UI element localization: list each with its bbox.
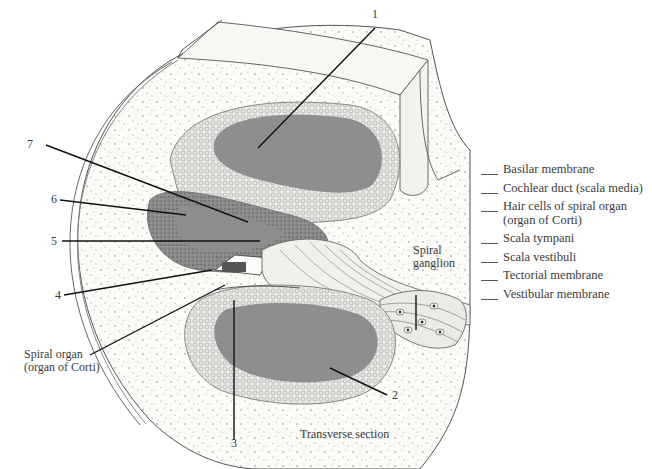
answer-blank	[481, 262, 498, 263]
legend-item: Basilar membrane	[481, 163, 651, 177]
legend-item-label: Cochlear duct (scala media)	[503, 182, 651, 196]
section-caption: Transverse section	[300, 428, 389, 441]
callout-4: 4	[55, 289, 61, 302]
answer-blank	[481, 211, 498, 212]
callout-6: 6	[51, 193, 57, 206]
legend-item-label: Tectorial membrane	[503, 269, 651, 283]
legend-item-label: Hair cells of spiral organ (organ of Cor…	[503, 200, 651, 227]
callout-7: 7	[27, 138, 33, 151]
answer-blank	[481, 280, 498, 281]
answer-blank	[481, 193, 498, 194]
legend-item: Scala vestibuli	[481, 251, 651, 265]
label-spiral-ganglion: Spiral ganglion	[413, 244, 455, 270]
legend-item: Hair cells of spiral organ (organ of Cor…	[481, 200, 651, 227]
legend-item-label: Scala vestibuli	[503, 251, 651, 265]
callout-3: 3	[231, 437, 237, 450]
callout-2: 2	[392, 389, 398, 402]
answer-blank	[481, 243, 498, 244]
legend-item-label: Vestibular membrane	[503, 288, 651, 302]
legend-item: Cochlear duct (scala media)	[481, 182, 651, 196]
legend-item: Scala tympani	[481, 232, 651, 246]
callout-1: 1	[372, 8, 378, 21]
term-legend: Basilar membrane Cochlear duct (scala me…	[481, 163, 651, 306]
legend-item-label: Basilar membrane	[503, 163, 651, 177]
callout-5: 5	[51, 235, 57, 248]
legend-item: Vestibular membrane	[481, 288, 651, 302]
answer-blank	[481, 299, 498, 300]
cochlea-diagram: 1 2 3 4 5 6 7 Spiral ganglion Spiral org…	[0, 0, 652, 469]
legend-item: Tectorial membrane	[481, 269, 651, 283]
label-spiral-organ: Spiral organ (organ of Corti)	[24, 348, 100, 374]
legend-item-label: Scala tympani	[503, 232, 651, 246]
answer-blank	[481, 174, 498, 175]
